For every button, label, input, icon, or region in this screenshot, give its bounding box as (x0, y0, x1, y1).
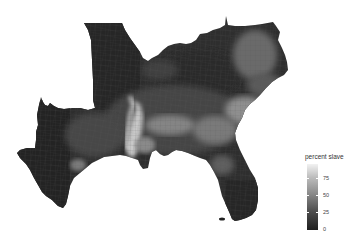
florida-keys (219, 218, 225, 221)
tickmark-75-right (316, 178, 318, 179)
tickmark-50 (307, 195, 309, 196)
legend-tick-25: 25 (323, 209, 329, 215)
tickmark-25 (307, 212, 309, 213)
legend-title: percent slave (305, 153, 344, 160)
legend-tick-75: 75 (323, 175, 329, 181)
legend: percent slave 75 50 25 0 (300, 153, 360, 238)
legend-colorbar (307, 164, 318, 230)
legend-tick-0: 0 (323, 226, 326, 232)
tickmark-50-right (316, 195, 318, 196)
tickmark-75 (307, 178, 309, 179)
tickmark-25-right (316, 212, 318, 213)
legend-tick-50: 50 (323, 192, 329, 198)
